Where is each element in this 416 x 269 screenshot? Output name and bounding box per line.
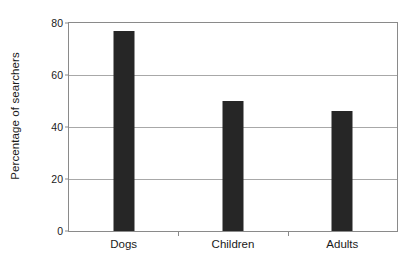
y-tick-mark xyxy=(65,75,69,76)
y-axis-title: Percentage of searchers xyxy=(0,0,30,232)
y-tick-label: 0 xyxy=(57,226,63,237)
y-tick-mark xyxy=(65,179,69,180)
x-tick-label-children: Children xyxy=(212,239,255,251)
x-tick-label-dogs: Dogs xyxy=(110,239,137,251)
bar-children[interactable] xyxy=(223,101,244,231)
x-tick-label-adults: Adults xyxy=(326,239,358,251)
plot-area: 020406080DogsChildrenAdults xyxy=(68,22,398,232)
bar-chart: Percentage of searchers 020406080DogsChi… xyxy=(0,0,416,269)
y-tick-label: 80 xyxy=(51,18,63,29)
y-tick-label: 40 xyxy=(51,122,63,133)
y-tick-mark xyxy=(65,23,69,24)
y-tick-mark xyxy=(65,231,69,232)
y-tick-label: 20 xyxy=(51,174,63,185)
y-tick-mark xyxy=(65,127,69,128)
bar-dogs[interactable] xyxy=(113,31,134,231)
x-category-separator xyxy=(178,231,179,236)
y-axis-title-text: Percentage of searchers xyxy=(9,52,21,180)
x-category-separator xyxy=(288,231,289,236)
bar-adults[interactable] xyxy=(332,111,353,231)
y-tick-label: 60 xyxy=(51,70,63,81)
